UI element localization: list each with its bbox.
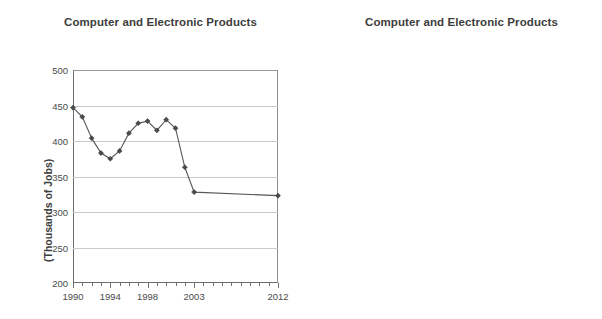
x-tick-label: 2003 — [184, 291, 205, 302]
data-point-marker — [98, 150, 103, 155]
plot-area-left: 500450400350300250200 199019941998200320… — [73, 70, 278, 283]
chart-panel-right: Computer and Electronic Products (CA Job… — [301, 0, 602, 319]
x-tick — [176, 283, 177, 286]
series-left — [73, 70, 278, 283]
y-tick-label: 250 — [34, 242, 68, 253]
x-tick — [129, 283, 130, 286]
x-tick — [259, 283, 260, 286]
x-tick — [185, 283, 186, 286]
x-tick — [157, 283, 158, 286]
x-tick — [166, 283, 167, 286]
data-point-marker — [192, 190, 197, 195]
x-tick — [250, 283, 251, 286]
x-tick — [73, 283, 74, 288]
data-point-marker — [89, 136, 94, 141]
x-tick — [241, 283, 242, 286]
x-tick — [222, 283, 223, 286]
x-tick — [101, 283, 102, 286]
x-tick — [120, 283, 121, 286]
x-tick — [278, 283, 279, 288]
y-tick-label: 450 — [34, 100, 68, 111]
x-tick-label: 1990 — [62, 291, 83, 302]
x-tick — [110, 283, 111, 288]
x-tick — [231, 283, 232, 286]
x-tick — [138, 283, 139, 286]
series-line — [73, 108, 278, 196]
x-tick-label: 1998 — [137, 291, 158, 302]
x-tick — [92, 283, 93, 286]
y-tick-label: 300 — [34, 207, 68, 218]
y-tick-label: 500 — [34, 65, 68, 76]
y-tick-label: 200 — [34, 278, 68, 289]
y-tick-label: 400 — [34, 136, 68, 147]
x-tick — [203, 283, 204, 286]
chart-panel-left: Computer and Electronic Products (Thousa… — [0, 0, 301, 319]
chart-title-right: Computer and Electronic Products — [331, 14, 592, 30]
data-point-marker — [275, 193, 280, 198]
x-tick — [269, 283, 270, 286]
x-tick — [213, 283, 214, 286]
figure-root: Computer and Electronic Products (Thousa… — [0, 0, 602, 319]
x-tick-label: 1994 — [100, 291, 121, 302]
x-tick — [82, 283, 83, 286]
y-tick-label: 350 — [34, 171, 68, 182]
chart-title-left: Computer and Electronic Products — [30, 14, 291, 30]
x-tick-label: 2012 — [267, 291, 288, 302]
data-point-marker — [182, 165, 187, 170]
x-tick — [148, 283, 149, 288]
x-tick — [194, 283, 195, 288]
